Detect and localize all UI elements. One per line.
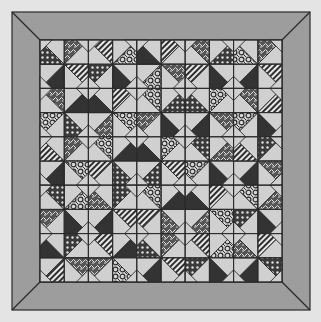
quilt-image xyxy=(0,0,321,322)
kaleidoscope-quilt xyxy=(0,0,321,322)
